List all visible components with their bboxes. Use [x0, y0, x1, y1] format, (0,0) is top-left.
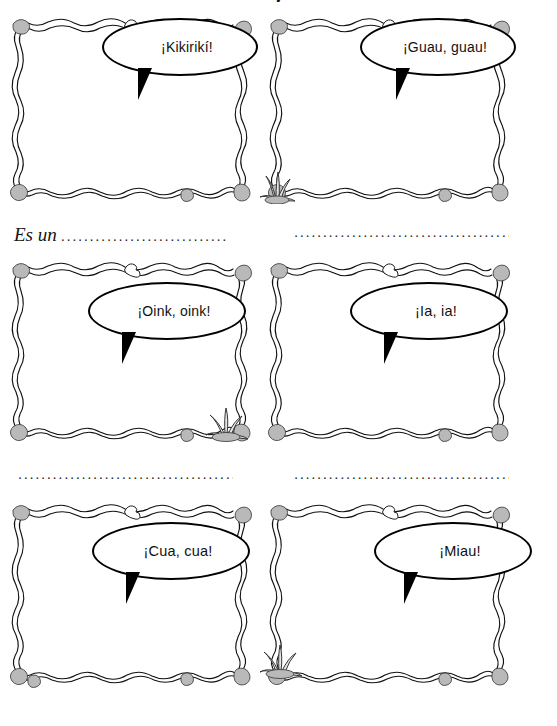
panel-6: ¡Miau! [266, 500, 510, 690]
panel-3: ¡Oink, oink! [8, 258, 252, 446]
panel-6-plant-decoration [258, 635, 306, 683]
worksheet-page: y [0, 0, 557, 726]
panel-1-bubble-text: ¡Kikirikí! [102, 18, 258, 76]
panel-2-bubble-text: ¡Guau, guau! [360, 18, 516, 76]
answer-line-4[interactable]: ........................................… [290, 466, 540, 490]
panel-5: ¡Cua, cua! [8, 500, 252, 690]
panel-1: ¡Kikirikí! [8, 14, 252, 206]
panel-5-speech-bubble: ¡Cua, cua! [92, 522, 250, 580]
answer-dots-2: ........................................… [294, 224, 509, 239]
panel-3-speech-bubble: ¡Oink, oink! [88, 282, 246, 340]
panel-1-speech-bubble: ¡Kikirikí! [102, 18, 258, 76]
panel-2-plant-decoration [258, 162, 302, 208]
answer-dots-4: ........................................… [294, 466, 509, 481]
page-title: y [0, 0, 557, 2]
panel-6-speech-bubble: ¡Miau! [374, 522, 532, 580]
panel-6-bubble-text: ¡Miau! [374, 522, 532, 580]
panel-3-plant-decoration [204, 398, 252, 446]
answer-line-3[interactable]: ........................................… [14, 466, 250, 490]
answer-prompt-1: Es un [14, 224, 57, 246]
panel-2: ¡Guau, guau! [266, 14, 510, 206]
panel-2-speech-bubble: ¡Guau, guau! [360, 18, 516, 76]
panel-5-bubble-text: ¡Cua, cua! [92, 522, 250, 580]
panel-4-speech-bubble: ¡Ia, ia! [350, 282, 508, 340]
panel-4: ¡Ia, ia! [266, 258, 510, 446]
answer-line-2[interactable]: ........................................… [290, 224, 540, 248]
panel-4-bubble-text: ¡Ia, ia! [350, 282, 508, 340]
answer-line-1[interactable]: Es un ..................................… [14, 224, 244, 248]
answer-dots-3: ........................................… [18, 466, 233, 481]
panel-3-bubble-text: ¡Oink, oink! [88, 282, 246, 340]
answer-dots-1: ........................................ [61, 228, 226, 243]
